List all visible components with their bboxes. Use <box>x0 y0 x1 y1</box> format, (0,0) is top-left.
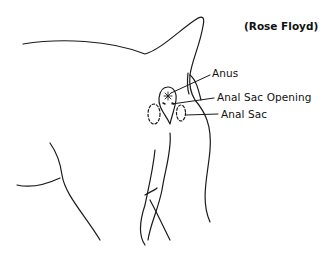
anal-sac-left <box>148 104 160 124</box>
leg-inner-line <box>148 133 170 240</box>
label-anal-sac: Anal Sac <box>221 109 267 120</box>
label-anus: Anus <box>212 68 238 79</box>
anal-sac-right <box>177 105 186 121</box>
leg-line-2 <box>140 150 155 245</box>
leg-line-3 <box>145 188 170 240</box>
anatomy-illustration <box>0 0 325 261</box>
label-anal-sac-opening: Anal Sac Opening <box>217 92 312 103</box>
back-outline <box>23 17 210 222</box>
left-leg-outline <box>50 143 100 240</box>
anal-oval <box>159 87 176 124</box>
figure-credit: (Rose Floyd) <box>244 21 318 32</box>
leader-anal-sac <box>186 114 218 115</box>
belly-line <box>17 178 60 186</box>
leader-anal-sac-opening <box>172 98 214 104</box>
